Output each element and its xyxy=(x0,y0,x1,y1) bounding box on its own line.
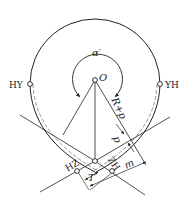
angle-arc xyxy=(73,54,123,97)
radial-lines xyxy=(63,80,146,165)
hy-label: HY xyxy=(9,80,24,90)
offset-label: m xyxy=(122,157,135,171)
curve-diagram: α′ O HY YH HZ ZH R+p p T m xyxy=(0,0,192,208)
hy-point xyxy=(28,82,33,87)
shift-label: p xyxy=(111,134,124,144)
angle-label: α′ xyxy=(92,47,102,58)
center-point xyxy=(93,78,98,83)
yh-label: YH xyxy=(164,80,179,90)
yh-point xyxy=(158,82,163,87)
center-label: O xyxy=(99,72,107,83)
apex-point xyxy=(93,159,98,164)
